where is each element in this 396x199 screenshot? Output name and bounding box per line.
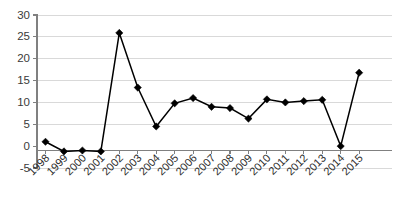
data-point-2015 <box>356 69 363 76</box>
y-axis <box>33 14 37 169</box>
y-axis-tick-labels: -5051015202530 <box>17 9 30 174</box>
data-point-2006 <box>190 94 197 101</box>
y-tick-label-10: 10 <box>17 96 30 108</box>
series-line <box>46 33 360 151</box>
data-point-2011 <box>282 99 289 106</box>
data-point-2014 <box>337 143 344 150</box>
data-point-2002 <box>116 29 123 36</box>
data-point-markers <box>42 29 363 155</box>
y-tick-label-20: 20 <box>17 52 30 64</box>
y-tick-label-25: 25 <box>17 30 30 42</box>
y-tick-label-5: 5 <box>24 118 30 130</box>
data-point-2012 <box>300 98 307 105</box>
data-point-2007 <box>208 103 215 110</box>
y-tick-label-0: 0 <box>24 140 30 152</box>
line-chart: -5051015202530 1998199920002001200220032… <box>0 0 396 199</box>
y-tick-label-30: 30 <box>17 9 30 21</box>
data-point-2003 <box>134 84 141 91</box>
x-tick-label-2015: 2015 <box>339 152 365 178</box>
data-point-2008 <box>226 105 233 112</box>
y-tick-label-15: 15 <box>17 74 30 86</box>
chart-canvas: -5051015202530 1998199920002001200220032… <box>0 0 396 199</box>
x-axis-tick-labels: 1998199920002001200220032004200520062007… <box>26 152 365 178</box>
data-series <box>46 33 360 151</box>
data-point-1998 <box>42 138 49 145</box>
